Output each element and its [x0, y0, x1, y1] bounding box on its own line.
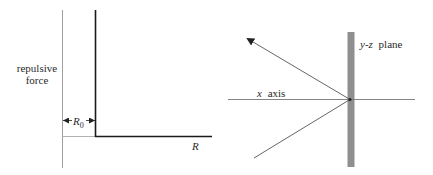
x-axis-label-r: R: [192, 140, 199, 152]
x-axis-label-rest: axis: [268, 87, 286, 99]
yz-plane-label-rest: plane: [379, 38, 403, 50]
y-axis-label-line1: repulsive: [14, 62, 60, 74]
y-axis-label-line2: force: [14, 74, 60, 86]
yz-plane-label-italic: y-z: [360, 38, 373, 50]
diagram-canvas: [0, 0, 433, 175]
impact-point: [349, 98, 352, 101]
force-graph: [63, 10, 213, 168]
incident-ray: [254, 100, 350, 159]
x-axis-label: x axis: [257, 87, 285, 99]
r0-label-subscript: 0: [80, 121, 84, 130]
y-axis-label: repulsive force: [14, 62, 60, 86]
yz-plane-label: y-z plane: [360, 38, 402, 50]
r0-label-main: R: [73, 115, 80, 127]
x-axis-label-italic: x: [257, 87, 262, 99]
r0-label: R0: [73, 115, 84, 132]
reflection-diagram: [228, 32, 415, 167]
